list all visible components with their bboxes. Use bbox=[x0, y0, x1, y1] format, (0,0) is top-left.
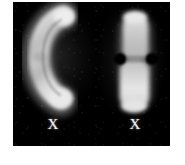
chromosome-label-left: X bbox=[43, 117, 63, 132]
micrograph-panel: X X bbox=[13, 2, 170, 146]
chromosome-left bbox=[33, 8, 75, 108]
chromosome-stage bbox=[13, 2, 170, 146]
chromosome-right-telomere-top bbox=[123, 11, 147, 23]
figure-root: X X bbox=[0, 0, 185, 165]
chromosome-right-centromere-notch-right bbox=[146, 53, 159, 65]
chromosome-right-centromere-notch-left bbox=[114, 53, 127, 65]
chromosome-right bbox=[114, 11, 159, 113]
chromosome-label-right: X bbox=[125, 117, 145, 132]
chromosome-left-centromere-shading bbox=[33, 52, 47, 62]
chromosome-right-telomere-bottom bbox=[121, 100, 147, 113]
chromosome-right-centromere bbox=[126, 56, 145, 63]
chromosome-left-telomere-bottom bbox=[50, 89, 73, 108]
figure-caption bbox=[13, 147, 170, 164]
